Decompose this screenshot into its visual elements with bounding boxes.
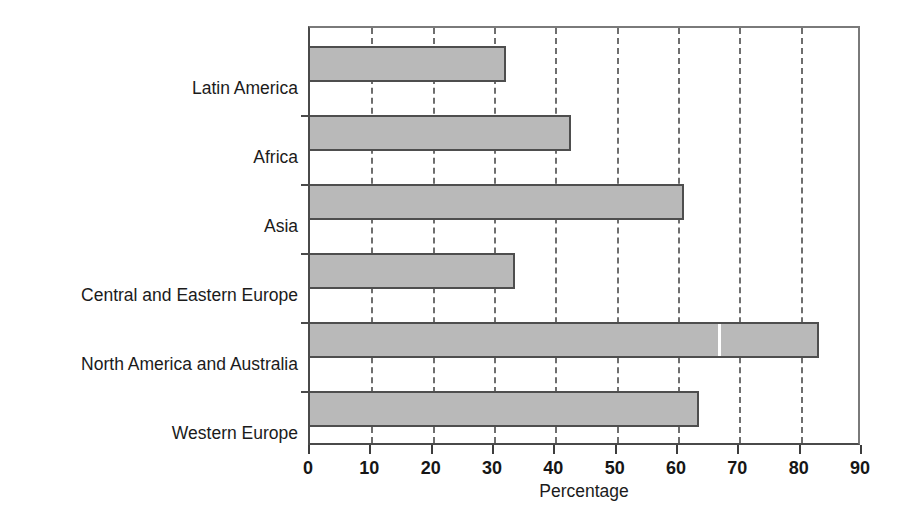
bar-central-and-eastern-europe <box>310 253 515 289</box>
x-axis-tick-70 <box>737 445 739 454</box>
x-axis-tick-label-70: 70 <box>727 457 747 479</box>
x-axis-tick-label-30: 30 <box>482 457 502 479</box>
plot-area <box>308 26 860 445</box>
x-axis-tick-label-60: 60 <box>666 457 686 479</box>
x-axis-tick-label-50: 50 <box>605 457 625 479</box>
x-axis-tick-30 <box>492 445 494 454</box>
gridline-70 <box>739 28 741 443</box>
bar-africa <box>310 115 571 151</box>
x-axis-tick-label-0: 0 <box>303 457 313 479</box>
category-label-latin-america: Latin America <box>192 78 298 98</box>
x-axis-tick-40 <box>553 445 555 454</box>
x-axis-tick-label-40: 40 <box>543 457 563 479</box>
x-axis-tick-0 <box>308 445 310 454</box>
category-label-africa: Africa <box>253 147 298 167</box>
bar-latin-america <box>310 46 506 82</box>
x-axis-tick-label-80: 80 <box>789 457 809 479</box>
bar-asia <box>310 184 684 220</box>
category-label-western-europe: Western Europe <box>172 423 298 443</box>
bar-western-europe <box>310 391 699 427</box>
y-axis-tick <box>301 322 310 324</box>
gridline-30 <box>494 28 496 443</box>
gridline-80 <box>801 28 803 443</box>
gridline-50 <box>617 28 619 443</box>
category-label-central-and-eastern-europe: Central and Eastern Europe <box>81 285 298 305</box>
bar-chart: Latin America Africa Asia Central and Ea… <box>0 0 901 526</box>
bar-north-america-and-australia <box>310 322 819 358</box>
x-axis-tick-50 <box>615 445 617 454</box>
y-axis-tick <box>301 253 310 255</box>
category-label-asia: Asia <box>264 216 298 236</box>
gridline-20 <box>433 28 435 443</box>
x-axis-tick-90 <box>860 445 862 454</box>
x-axis-tick-60 <box>676 445 678 454</box>
x-axis-title: Percentage <box>308 481 860 502</box>
x-axis-tick-label-10: 10 <box>359 457 379 479</box>
gridline-10 <box>371 28 373 443</box>
gridline-60 <box>678 28 680 443</box>
category-label-north-america-and-australia: North America and Australia <box>81 354 298 374</box>
x-axis-tick-10 <box>369 445 371 454</box>
x-axis-tick-20 <box>431 445 433 454</box>
y-axis-tick <box>301 391 310 393</box>
gridline-40 <box>555 28 557 443</box>
y-axis-tick <box>301 115 310 117</box>
x-axis-tick-label-90: 90 <box>850 457 870 479</box>
category-axis-labels: Latin America Africa Asia Central and Ea… <box>0 26 298 445</box>
x-axis-tick-label-20: 20 <box>421 457 441 479</box>
y-axis-tick <box>301 184 310 186</box>
bar-seam-artifact <box>718 324 721 356</box>
x-axis-tick-80 <box>799 445 801 454</box>
